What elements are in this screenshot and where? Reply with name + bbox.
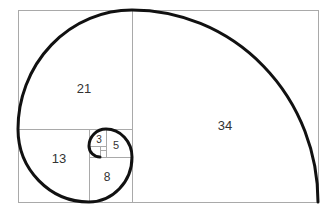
label-34: 34 xyxy=(218,118,232,133)
fibonacci-spiral-diagram: 34 21 13 8 5 3 xyxy=(0,0,333,214)
label-3: 3 xyxy=(96,134,102,145)
label-21: 21 xyxy=(77,81,91,96)
label-5: 5 xyxy=(113,139,119,151)
outer-rectangle xyxy=(19,11,319,203)
label-13: 13 xyxy=(52,151,66,166)
golden-spiral xyxy=(18,10,318,202)
label-8: 8 xyxy=(104,170,111,184)
